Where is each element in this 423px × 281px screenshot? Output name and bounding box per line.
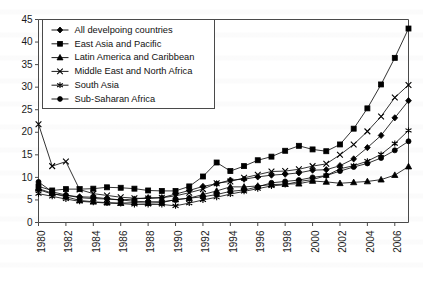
- cross-marker: [63, 159, 69, 165]
- y-tick-label: 0: [27, 217, 33, 228]
- circle-marker: [406, 139, 411, 144]
- circle-marker: [310, 175, 315, 180]
- x-tick-label: 1986: [118, 230, 129, 253]
- circle-marker: [337, 169, 342, 174]
- x-tick-label: 1992: [200, 230, 211, 253]
- square-marker: [379, 82, 384, 87]
- x-tick-label: 1984: [91, 230, 102, 253]
- y-tick-label: 15: [21, 149, 33, 160]
- y-tick-label: 35: [21, 59, 33, 70]
- circle-marker: [105, 197, 110, 202]
- cross-marker: [378, 114, 384, 120]
- x-tick-label: 1996: [255, 230, 266, 253]
- x-tick-label: 1994: [228, 230, 239, 253]
- circle-marker: [255, 184, 260, 189]
- y-tick-label: 30: [21, 81, 33, 92]
- square-marker: [255, 158, 260, 163]
- circle-marker: [283, 179, 288, 184]
- y-tick-label: 10: [21, 172, 33, 183]
- y-tick-label: 45: [21, 14, 33, 25]
- x-tick-label: 1980: [36, 230, 47, 253]
- square-marker: [159, 188, 164, 193]
- circle-marker: [351, 165, 356, 170]
- circle-marker: [379, 155, 384, 160]
- circle-marker: [269, 180, 274, 185]
- circle-marker: [228, 189, 233, 194]
- square-marker: [132, 186, 137, 191]
- legend-label: South Asia: [75, 80, 120, 90]
- circle-marker: [173, 197, 178, 202]
- circle-marker: [63, 192, 68, 197]
- diamond-marker: [323, 167, 329, 173]
- x-tick-label: 2004: [365, 230, 376, 253]
- circle-marker: [77, 195, 82, 200]
- square-marker: [173, 188, 178, 193]
- y-tick-label: 20: [21, 126, 33, 137]
- x-tick-label: 2002: [337, 230, 348, 253]
- circle-marker: [187, 196, 192, 201]
- square-marker: [228, 169, 233, 174]
- square-marker: [214, 160, 219, 165]
- square-marker: [242, 164, 247, 169]
- square-marker: [58, 41, 63, 46]
- diamond-marker: [351, 156, 357, 162]
- circle-marker: [324, 173, 329, 178]
- square-marker: [63, 187, 68, 192]
- circle-marker: [392, 148, 397, 153]
- x-tick-label: 1998: [282, 230, 293, 253]
- square-marker: [187, 184, 192, 189]
- square-marker: [406, 26, 411, 31]
- circle-marker: [91, 196, 96, 201]
- square-marker: [337, 142, 342, 147]
- x-tick-label: 1982: [63, 230, 74, 253]
- line-chart: 0510152025303540451980198219841986198819…: [0, 0, 423, 281]
- triangle-marker: [405, 163, 411, 169]
- legend-label: All develpoing countries: [75, 25, 174, 35]
- diamond-marker: [282, 171, 288, 177]
- x-tick-label: 2000: [310, 230, 321, 253]
- square-marker: [392, 55, 397, 60]
- circle-marker: [200, 194, 205, 199]
- x-axis-ticks: 1980198219841986198819901992199419961998…: [36, 223, 403, 253]
- chart-legend: All develpoing countriesEast Asia and Pa…: [43, 20, 215, 109]
- circle-marker: [365, 161, 370, 166]
- circle-marker: [36, 179, 41, 184]
- chart-container: 0510152025303540451980198219841986198819…: [0, 0, 423, 281]
- legend-label: Middle East and North Africa: [75, 66, 194, 76]
- y-tick-label: 25: [21, 104, 33, 115]
- square-marker: [283, 148, 288, 153]
- x-tick-label: 1990: [173, 230, 184, 253]
- cross-marker: [351, 142, 357, 148]
- square-marker: [310, 147, 315, 152]
- asterisk-marker: [36, 191, 42, 197]
- triangle-marker: [227, 184, 233, 190]
- square-marker: [146, 188, 151, 193]
- cross-marker: [392, 95, 398, 101]
- square-marker: [269, 154, 274, 159]
- legend-label: East Asia and Pacific: [75, 39, 162, 49]
- y-tick-label: 5: [27, 194, 33, 205]
- square-marker: [91, 186, 96, 191]
- cross-marker: [49, 163, 55, 169]
- square-marker: [200, 174, 205, 179]
- x-tick-label: 2006: [392, 230, 403, 253]
- triangle-marker: [392, 172, 398, 178]
- y-tick-label: 40: [21, 36, 33, 47]
- square-marker: [324, 149, 329, 154]
- circle-marker: [118, 197, 123, 202]
- square-marker: [105, 185, 110, 190]
- circle-marker: [132, 199, 137, 204]
- circle-marker: [214, 192, 219, 197]
- legend-label: Sub-Saharan Africa: [75, 94, 156, 104]
- legend-label: Latin America and Caribbean: [75, 52, 195, 62]
- circle-marker: [58, 97, 63, 102]
- circle-marker: [242, 188, 247, 193]
- cross-marker: [365, 129, 371, 135]
- circle-marker: [296, 178, 301, 183]
- x-tick-label: 1988: [145, 230, 156, 253]
- circle-marker: [146, 199, 151, 204]
- square-marker: [365, 106, 370, 111]
- cross-marker: [337, 152, 343, 158]
- square-marker: [296, 143, 301, 148]
- square-marker: [118, 185, 123, 190]
